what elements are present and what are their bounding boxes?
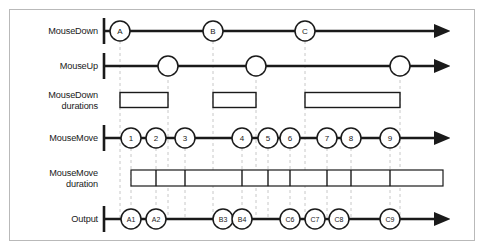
- event-node-label: A: [117, 27, 123, 36]
- row-label-mousedown: MouseDown: [0, 26, 98, 37]
- row-mousemove: 123456789: [104, 125, 436, 151]
- event-node-label: 9: [388, 134, 393, 143]
- row-label-mouseup: MouseUp: [0, 61, 98, 72]
- event-node-label: 2: [154, 134, 159, 143]
- event-node-label: B4: [238, 216, 247, 223]
- event-node-label: 1: [129, 134, 134, 143]
- row-mousemove-duration: [131, 170, 443, 186]
- event-node[interactable]: [246, 56, 266, 76]
- row-mousedown-durations: [120, 93, 400, 108]
- duration-bar[interactable]: [305, 93, 400, 108]
- row-label-mousemove-duration: MouseMove duration: [0, 168, 98, 189]
- duration-grid[interactable]: [131, 170, 443, 186]
- event-node-label: 4: [240, 134, 245, 143]
- row-output: A1A2B3B4C6C7C8C9: [104, 206, 436, 232]
- event-node-label: A2: [152, 216, 161, 223]
- rows-layer: ABC123456789A1A2B3B4C6C7C8C9: [104, 18, 443, 232]
- figure-root: ABC123456789A1A2B3B4C6C7C8C9 MouseDownMo…: [0, 0, 485, 251]
- row-label-mousedown-durations: MouseDown durations: [0, 90, 98, 111]
- event-node-label: 6: [288, 134, 293, 143]
- event-node-label: C8: [335, 216, 344, 223]
- event-node[interactable]: [158, 56, 178, 76]
- event-node-label: 3: [183, 134, 188, 143]
- event-node-label: 7: [325, 134, 330, 143]
- row-mousedown: ABC: [104, 18, 436, 44]
- event-node-label: C: [302, 27, 308, 36]
- event-node-label: C6: [286, 216, 295, 223]
- event-node-label: B: [210, 27, 215, 36]
- duration-bar[interactable]: [120, 93, 168, 108]
- row-label-mousemove: MouseMove: [0, 133, 98, 144]
- event-node[interactable]: [390, 56, 410, 76]
- event-node-label: B3: [219, 216, 228, 223]
- event-node-label: 5: [266, 134, 271, 143]
- row-label-output: Output: [0, 214, 98, 225]
- event-node-label: A1: [127, 216, 136, 223]
- event-node-label: C7: [311, 216, 320, 223]
- event-node-label: 8: [349, 134, 354, 143]
- row-mouseup: [104, 53, 436, 79]
- event-node-label: C9: [386, 216, 395, 223]
- duration-bar[interactable]: [213, 93, 256, 108]
